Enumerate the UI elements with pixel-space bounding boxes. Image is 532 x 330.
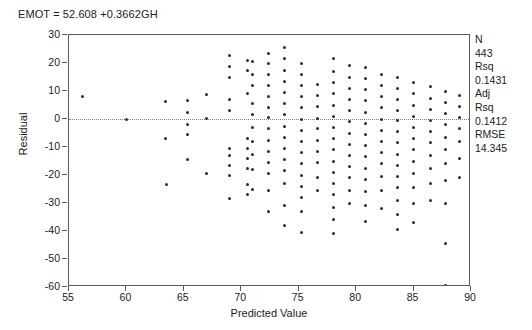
data-point: [380, 106, 383, 109]
data-point: [283, 91, 286, 94]
y-tick-label: -30: [45, 196, 60, 208]
data-point: [251, 153, 254, 156]
data-point: [444, 101, 447, 104]
data-point: [300, 129, 303, 132]
data-point: [364, 204, 367, 207]
data-point: [412, 126, 415, 129]
chart-title: EMOT = 52.608 +0.3662GH: [18, 8, 158, 20]
data-point: [246, 193, 249, 196]
data-point: [283, 136, 286, 139]
data-point: [332, 137, 335, 140]
data-point: [316, 83, 319, 86]
scatter-canvas: [69, 35, 469, 285]
data-point: [316, 105, 319, 108]
data-point: [429, 154, 432, 157]
data-point: [251, 84, 254, 87]
data-point: [380, 118, 383, 121]
data-point: [228, 76, 231, 79]
y-tick-label: -20: [45, 168, 60, 180]
y-tick-mark: [62, 174, 67, 175]
data-point: [380, 175, 383, 178]
data-point: [444, 90, 447, 93]
data-point: [364, 155, 367, 158]
data-point: [364, 144, 367, 147]
data-point: [429, 130, 432, 133]
data-point: [396, 109, 399, 112]
data-point: [228, 109, 231, 112]
data-point: [283, 80, 286, 83]
data-point: [396, 87, 399, 90]
data-point: [246, 167, 249, 170]
data-point: [412, 172, 415, 175]
data-point: [283, 158, 286, 161]
data-point: [186, 133, 189, 136]
y-tick-label: -40: [45, 224, 60, 236]
data-point: [283, 57, 286, 60]
data-point: [380, 95, 383, 98]
stat-rsq-label: Rsq: [475, 60, 530, 74]
data-point: [228, 65, 231, 68]
data-point: [186, 123, 189, 126]
x-tick-label: 70: [234, 291, 246, 303]
data-point: [228, 197, 231, 200]
zero-reference-line: [69, 119, 469, 120]
data-point: [165, 183, 168, 186]
data-point: [429, 119, 432, 122]
data-point: [205, 93, 208, 96]
data-point: [300, 84, 303, 87]
data-point: [186, 111, 189, 114]
data-point: [429, 108, 432, 111]
y-tick-mark: [62, 230, 67, 231]
x-tick-label: 90: [464, 291, 476, 303]
data-point: [316, 176, 319, 179]
data-point: [283, 69, 286, 72]
data-point: [332, 57, 335, 60]
data-point: [396, 76, 399, 79]
data-point: [364, 220, 367, 223]
data-point: [332, 70, 335, 73]
data-point: [332, 126, 335, 129]
data-point: [205, 172, 208, 175]
data-point: [316, 139, 319, 142]
data-point: [348, 132, 351, 135]
y-tick-mark: [62, 286, 67, 287]
data-point: [246, 92, 249, 95]
y-tick-label: 30: [48, 28, 60, 40]
data-point: [267, 139, 270, 142]
data-point: [267, 73, 270, 76]
data-point: [283, 46, 286, 49]
data-point: [380, 207, 383, 210]
data-point: [186, 158, 189, 161]
data-point: [348, 64, 351, 67]
data-point: [396, 228, 399, 231]
x-axis-title: Predicted Value: [68, 307, 470, 319]
stat-n-label: N: [475, 33, 530, 47]
data-point: [332, 160, 335, 163]
y-tick-mark: [62, 90, 67, 91]
data-point: [125, 118, 128, 121]
data-point: [396, 119, 399, 122]
x-tick-mark: [240, 286, 241, 291]
y-tick-label: 20: [48, 56, 60, 68]
data-point: [429, 97, 432, 100]
data-point: [228, 54, 231, 57]
data-point: [380, 73, 383, 76]
data-point: [412, 186, 415, 189]
y-axis-title: Residual: [17, 84, 29, 184]
data-point: [164, 100, 167, 103]
stats-panel: N 443 Rsq 0.1431 Adj Rsq 0.1412 RMSE 14.…: [475, 33, 530, 155]
x-tick-label: 80: [349, 291, 361, 303]
data-point: [458, 176, 461, 179]
data-point: [267, 95, 270, 98]
data-point: [246, 157, 249, 160]
data-point: [412, 160, 415, 163]
y-tick-label: 10: [48, 84, 60, 96]
data-point: [316, 127, 319, 130]
data-point: [412, 137, 415, 140]
data-point: [300, 231, 303, 234]
x-tick-mark: [355, 286, 356, 291]
x-tick-label: 60: [120, 291, 132, 303]
data-point: [251, 188, 254, 191]
data-point: [332, 193, 335, 196]
data-point: [267, 106, 270, 109]
